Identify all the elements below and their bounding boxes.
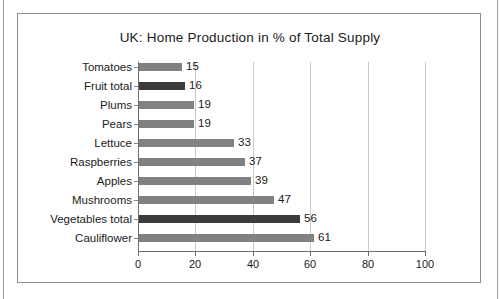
bar-value-label: 15 [186,61,199,72]
x-tick-label-0: 0 [118,258,158,270]
x-tick-20 [195,252,196,256]
y-tick [134,181,138,182]
page-rule-right [497,0,498,299]
bar-value-label: 19 [198,99,211,110]
bar-row: Cauliflower61 [138,233,425,252]
y-tick [134,86,138,87]
category-label: Cauliflower [22,233,132,243]
plot-area: 020406080100 Tomatoes15Fruit total16Plum… [138,62,425,251]
x-tick-label-20: 20 [175,258,215,270]
category-label: Mushrooms [22,195,132,205]
y-tick [134,162,138,163]
bar [139,234,314,242]
x-tick-label-100: 100 [405,258,445,270]
bar [139,158,245,166]
bar [139,120,194,128]
y-tick [134,124,138,125]
chart-screenshot: UK: Home Production in % of Total Supply… [0,0,501,299]
bar-row: Fruit total16 [138,81,425,100]
bar-row: Pears19 [138,119,425,138]
category-label: Apples [22,176,132,186]
x-tick-0 [138,252,139,256]
bar-value-label: 56 [304,213,317,224]
bar [139,215,300,223]
chart-frame: UK: Home Production in % of Total Supply… [17,13,481,283]
category-label: Raspberries [22,157,132,167]
x-tick-label-80: 80 [348,258,388,270]
y-tick [134,105,138,106]
bar-row: Vegetables total56 [138,214,425,233]
x-tick-80 [368,252,369,256]
category-label: Plums [22,100,132,110]
category-label: Lettuce [22,138,132,148]
chart-title: UK: Home Production in % of Total Supply [18,30,482,45]
bar-row: Plums19 [138,100,425,119]
y-tick [134,67,138,68]
bar [139,101,194,109]
bar-value-label: 37 [249,156,262,167]
bar [139,63,182,71]
y-tick [134,200,138,201]
gridline-100 [425,62,426,251]
bar-value-label: 33 [238,137,251,148]
x-tick-100 [425,252,426,256]
bar-row: Tomatoes15 [138,62,425,81]
x-tick-label-60: 60 [290,258,330,270]
bar [139,139,234,147]
bar-value-label: 47 [278,194,291,205]
x-tick-label-40: 40 [233,258,273,270]
y-tick [134,219,138,220]
bar [139,196,274,204]
bar-row: Lettuce33 [138,138,425,157]
x-tick-40 [253,252,254,256]
bar-value-label: 16 [189,80,202,91]
page-rule-left [3,0,4,299]
category-label: Vegetables total [22,214,132,224]
bar-value-label: 19 [198,118,211,129]
bar-row: Raspberries37 [138,157,425,176]
category-label: Fruit total [22,81,132,91]
bar-row: Mushrooms47 [138,195,425,214]
y-tick [134,238,138,239]
category-label: Tomatoes [22,62,132,72]
bar-value-label: 39 [255,175,268,186]
x-tick-60 [310,252,311,256]
bar [139,82,185,90]
category-label: Pears [22,119,132,129]
bar-value-label: 61 [318,232,331,243]
y-tick [134,143,138,144]
bar [139,177,251,185]
